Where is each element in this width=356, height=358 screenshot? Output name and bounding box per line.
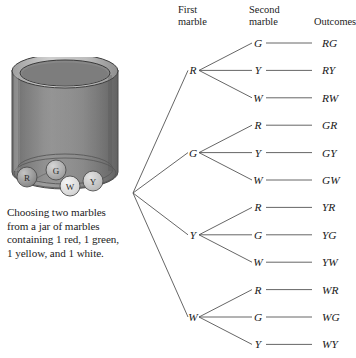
outcome-gr: GR bbox=[322, 119, 337, 131]
branch-r-to-w bbox=[199, 70, 252, 97]
outcome-yr: YR bbox=[322, 201, 335, 213]
tree-diagram-figure: R G W Y Choosing two marbles from a jar … bbox=[0, 0, 356, 358]
second-marble-node-r-y: Y bbox=[255, 64, 263, 76]
first-marble-node-r: R bbox=[189, 64, 197, 76]
outcome-gw: GW bbox=[322, 174, 341, 186]
second-marble-node-w-g: G bbox=[254, 311, 262, 323]
branch-root-to-y bbox=[133, 193, 188, 235]
second-marble-node-g-y: Y bbox=[255, 147, 263, 159]
branch-g-to-w bbox=[199, 153, 252, 180]
second-marble-node-w-r: R bbox=[254, 284, 262, 296]
outcome-gy: GY bbox=[322, 147, 338, 159]
branch-g-to-r bbox=[199, 125, 252, 152]
second-marble-node-w-y: Y bbox=[255, 338, 263, 350]
outcome-rw: RW bbox=[321, 92, 340, 104]
outcome-wy: WY bbox=[322, 338, 339, 350]
branch-w-to-y bbox=[199, 317, 252, 344]
second-marble-node-g-w: W bbox=[253, 174, 264, 186]
tree-branch-lines bbox=[133, 43, 312, 344]
outcome-wr: WR bbox=[322, 284, 338, 296]
first-marble-node-y: Y bbox=[190, 229, 198, 241]
outcome-wg: WG bbox=[322, 311, 340, 323]
tree-node-labels: RGRGYRYWRWGRGRYGYWGWYRYRGYGWYWWRWRGWGYWY bbox=[188, 37, 341, 350]
branch-r-to-g bbox=[199, 43, 252, 70]
outcome-yg: YG bbox=[322, 229, 337, 241]
outcome-ry: RY bbox=[321, 64, 337, 76]
second-marble-node-r-w: W bbox=[253, 92, 264, 104]
second-marble-node-g-r: R bbox=[254, 119, 262, 131]
branch-root-to-w bbox=[133, 193, 188, 317]
second-marble-node-y-g: G bbox=[254, 229, 262, 241]
outcome-yw: YW bbox=[322, 256, 339, 268]
first-marble-node-w: W bbox=[188, 311, 199, 323]
outcome-rg: RG bbox=[321, 37, 337, 49]
branch-root-to-g bbox=[133, 153, 188, 193]
branch-w-to-r bbox=[199, 290, 252, 317]
probability-tree: RGRGYRYWRWGRGRYGYWGWYRYRGYGWYWWRWRGWGYWY bbox=[0, 0, 356, 358]
branch-y-to-w bbox=[199, 235, 252, 262]
branch-root-to-r bbox=[133, 70, 188, 193]
second-marble-node-y-w: W bbox=[253, 256, 264, 268]
first-marble-node-g: G bbox=[189, 147, 197, 159]
second-marble-node-y-r: R bbox=[254, 201, 262, 213]
branch-y-to-r bbox=[199, 207, 252, 234]
second-marble-node-r-g: G bbox=[254, 37, 262, 49]
